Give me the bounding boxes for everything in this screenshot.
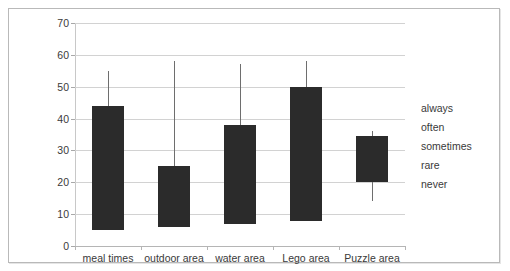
x-tick-label: meal times <box>83 252 134 264</box>
plot-area <box>75 23 405 246</box>
y-tick-mark <box>71 55 75 56</box>
x-tick-mark <box>273 246 274 250</box>
y-gridline <box>75 55 405 56</box>
y-tick-mark <box>71 214 75 215</box>
legend-item: sometimes <box>421 137 491 156</box>
y-tick-mark <box>71 150 75 151</box>
y-tick-label: 70 <box>57 17 69 29</box>
x-tick-label: Lego area <box>282 252 329 264</box>
bar <box>224 125 256 224</box>
y-axis-tick-labels: 010203040506070 <box>37 23 69 246</box>
y-tick-mark <box>71 23 75 24</box>
x-tick-label: Puzzle area <box>344 252 399 264</box>
x-tick-mark <box>405 246 406 250</box>
y-tick-mark <box>71 119 75 120</box>
bar <box>356 136 388 182</box>
bar <box>290 87 322 221</box>
y-gridline <box>75 23 405 24</box>
whisker-upper <box>174 61 175 166</box>
legend-item: often <box>421 118 491 137</box>
legend-item: always <box>421 99 491 118</box>
y-tick-label: 50 <box>57 81 69 93</box>
y-tick-label: 10 <box>57 208 69 220</box>
x-tick-mark <box>75 246 76 250</box>
bar <box>158 166 190 227</box>
y-axis-line <box>75 23 76 246</box>
y-tick-label: 40 <box>57 113 69 125</box>
x-axis-line <box>75 246 405 247</box>
bar <box>92 106 124 230</box>
y-tick-mark <box>71 87 75 88</box>
whisker-lower <box>372 182 373 201</box>
y-tick-label: 60 <box>57 49 69 61</box>
x-tick-label: water area <box>215 252 265 264</box>
x-tick-mark <box>141 246 142 250</box>
y-tick-mark <box>71 182 75 183</box>
whisker-upper <box>240 64 241 125</box>
legend-item: never <box>421 175 491 194</box>
legend-item: rare <box>421 156 491 175</box>
chart-figure: 010203040506070 alwaysoftensometimesrare… <box>8 8 500 263</box>
x-tick-mark <box>207 246 208 250</box>
chart-legend: alwaysoftensometimesrarenever <box>421 99 491 194</box>
whisker-upper <box>108 71 109 106</box>
y-tick-label: 20 <box>57 176 69 188</box>
y-tick-label: 30 <box>57 144 69 156</box>
x-tick-label: outdoor area <box>144 252 204 264</box>
y-tick-label: 0 <box>63 240 69 252</box>
whisker-upper <box>306 61 307 86</box>
x-tick-mark <box>339 246 340 250</box>
